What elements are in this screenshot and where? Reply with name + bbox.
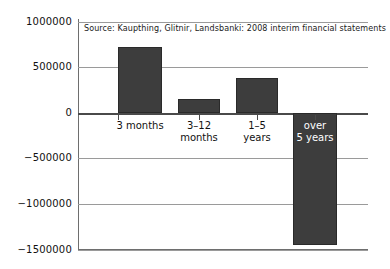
- y-axis-tick-label: −500000: [0, 153, 72, 163]
- y-axis-tick-label: −1000000: [0, 199, 72, 209]
- gridline-minus-1500000: [78, 250, 368, 251]
- y-axis-line: [78, 19, 79, 250]
- plot-area: Source: Kaupthing, Glitnir, Landsbanki: …: [78, 19, 368, 250]
- gridline-1000000: [78, 22, 368, 23]
- bar-1-5-years: [236, 78, 278, 113]
- bar-chart-figure: 1000000 500000 0 −500000 −1000000 −15000…: [0, 0, 390, 269]
- y-axis-tick-label: 500000: [0, 62, 72, 72]
- bar-3-12-months: [178, 99, 220, 113]
- y-axis-tick-label: −1500000: [0, 245, 72, 255]
- y-axis-tick-label: 1000000: [0, 17, 72, 27]
- category-label-over-5-years: over 5 years: [291, 120, 339, 144]
- source-annotation: Source: Kaupthing, Glitnir, Landsbanki: …: [84, 24, 386, 34]
- bar-3-months: [118, 47, 162, 113]
- y-axis-tick-label: 0: [0, 108, 72, 118]
- category-label-1-5-years: 1–5 years: [224, 120, 290, 144]
